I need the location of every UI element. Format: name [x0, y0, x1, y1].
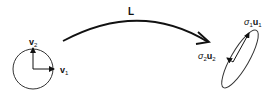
axis-u1-arrow — [233, 33, 249, 62]
sigma1-u1-label: σ1u1 — [244, 17, 262, 28]
svd-diagram: v2 v1 L σ1u1 σ2u2 — [0, 0, 277, 94]
sigma2-u2-label: σ2u2 — [198, 51, 216, 62]
v1-label: v1 — [60, 65, 69, 76]
transform-arrow — [63, 21, 208, 42]
v2-label: v2 — [29, 37, 38, 48]
transform-label: L — [128, 6, 134, 17]
image-ellipse — [216, 26, 265, 92]
